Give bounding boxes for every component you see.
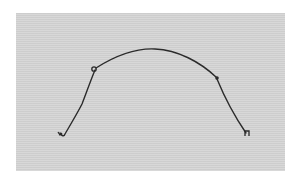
right-hook — [245, 131, 249, 136]
left-wire-leg — [60, 70, 95, 136]
bent-wire-shape — [0, 0, 297, 182]
right-wire-leg — [217, 79, 246, 133]
left-loop — [92, 67, 96, 71]
wire-arch — [96, 49, 216, 77]
